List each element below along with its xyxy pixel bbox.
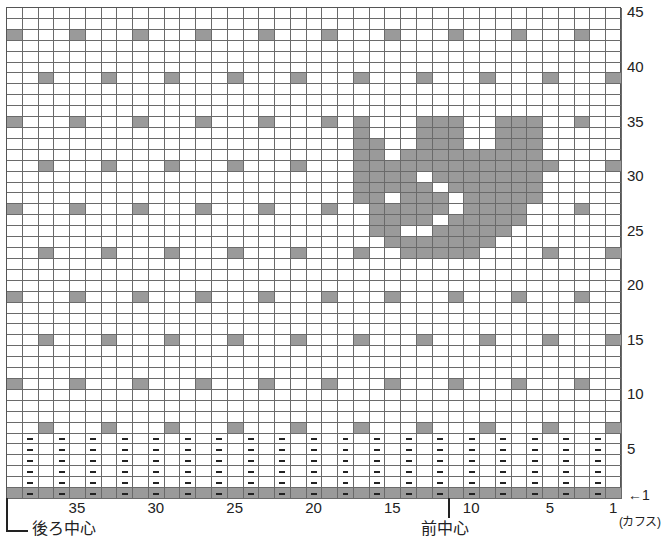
- stitch-cell: [354, 215, 370, 226]
- stitch-cell: [23, 161, 39, 172]
- stitch-cell: [133, 193, 149, 204]
- stitch-cell: [117, 488, 133, 499]
- stitch-cell: [212, 346, 228, 357]
- stitch-cell: [543, 303, 559, 314]
- stitch-cell: [23, 30, 39, 41]
- back-center-label: 後ろ中心: [32, 515, 96, 539]
- stitch-cell: [338, 204, 354, 215]
- stitch-cell: [117, 357, 133, 368]
- stitch-cell: [370, 204, 386, 215]
- stitch-cell: [401, 314, 417, 325]
- stitch-cell: [496, 84, 512, 95]
- stitch-cell: [543, 172, 559, 183]
- stitch-cell: [322, 248, 338, 259]
- row-label: 25: [627, 223, 644, 238]
- stitch-cell: [559, 390, 575, 401]
- stitch-cell: [7, 270, 23, 281]
- stitch-cell: [70, 84, 86, 95]
- stitch-cell: [244, 314, 260, 325]
- stitch-cell: [433, 488, 449, 499]
- stitch-cell: [512, 172, 528, 183]
- stitch-cell: [70, 183, 86, 194]
- stitch-cell: [590, 128, 606, 139]
- stitch-cell: [590, 357, 606, 368]
- stitch-cell: [149, 52, 165, 63]
- stitch-cell: [39, 412, 55, 423]
- stitch-cell: [370, 346, 386, 357]
- stitch-cell: [54, 303, 70, 314]
- stitch-cell: [23, 95, 39, 106]
- stitch-cell: [180, 368, 196, 379]
- stitch-cell: [54, 401, 70, 412]
- stitch-cell: [259, 204, 275, 215]
- stitch-cell: [7, 30, 23, 41]
- stitch-cell: [512, 434, 528, 445]
- stitch-cell: [370, 248, 386, 259]
- stitch-cell: [385, 488, 401, 499]
- stitch-cell: [117, 183, 133, 194]
- purl-mark-icon: [469, 460, 475, 462]
- stitch-cell: [39, 390, 55, 401]
- stitch-cell: [86, 488, 102, 499]
- stitch-cell: [196, 390, 212, 401]
- stitch-cell: [228, 346, 244, 357]
- stitch-cell: [23, 248, 39, 259]
- stitch-cell: [401, 455, 417, 466]
- stitch-cell: [575, 193, 591, 204]
- stitch-cell: [385, 303, 401, 314]
- stitch-cell: [259, 335, 275, 346]
- stitch-cell: [291, 30, 307, 41]
- purl-mark-icon: [532, 449, 538, 451]
- stitch-cell: [23, 183, 39, 194]
- purl-mark-icon: [563, 493, 569, 495]
- stitch-cell: [590, 434, 606, 445]
- stitch-cell: [590, 215, 606, 226]
- stitch-cell: [102, 117, 118, 128]
- stitch-cell: [133, 139, 149, 150]
- stitch-cell: [590, 183, 606, 194]
- stitch-cell: [7, 390, 23, 401]
- stitch-cell: [417, 423, 433, 434]
- stitch-cell: [543, 423, 559, 434]
- front-center-label: 前中心: [421, 515, 469, 539]
- stitch-cell: [149, 128, 165, 139]
- stitch-cell: [117, 63, 133, 74]
- stitch-cell: [464, 248, 480, 259]
- stitch-cell: [590, 30, 606, 41]
- stitch-cell: [338, 292, 354, 303]
- stitch-cell: [180, 401, 196, 412]
- stitch-cell: [228, 281, 244, 292]
- stitch-cell: [165, 8, 181, 19]
- stitch-cell: [433, 303, 449, 314]
- purl-mark-icon: [185, 438, 191, 440]
- stitch-cell: [385, 248, 401, 259]
- stitch-cell: [449, 455, 465, 466]
- stitch-cell: [512, 193, 528, 204]
- stitch-cell: [117, 455, 133, 466]
- stitch-cell: [149, 455, 165, 466]
- stitch-cell: [464, 379, 480, 390]
- stitch-cell: [385, 8, 401, 19]
- stitch-cell: [354, 434, 370, 445]
- stitch-cell: [370, 215, 386, 226]
- stitch-cell: [417, 466, 433, 477]
- stitch-cell: [449, 466, 465, 477]
- stitch-cell: [102, 477, 118, 488]
- purl-mark-icon: [311, 482, 317, 484]
- purl-mark-icon: [343, 493, 349, 495]
- knitting-chart: 51015202530354045 35302520151051 ←1 (カフス…: [0, 0, 670, 542]
- stitch-cell: [133, 30, 149, 41]
- stitch-cell: [39, 139, 55, 150]
- stitch-cell: [117, 84, 133, 95]
- stitch-cell: [165, 19, 181, 30]
- stitch-cell: [196, 52, 212, 63]
- stitch-cell: [480, 488, 496, 499]
- stitch-cell: [102, 292, 118, 303]
- stitch-cell: [543, 52, 559, 63]
- stitch-cell: [212, 161, 228, 172]
- stitch-cell: [23, 73, 39, 84]
- row-label: 5: [627, 441, 635, 456]
- stitch-cell: [275, 379, 291, 390]
- purl-mark-icon: [153, 482, 159, 484]
- stitch-cell: [543, 281, 559, 292]
